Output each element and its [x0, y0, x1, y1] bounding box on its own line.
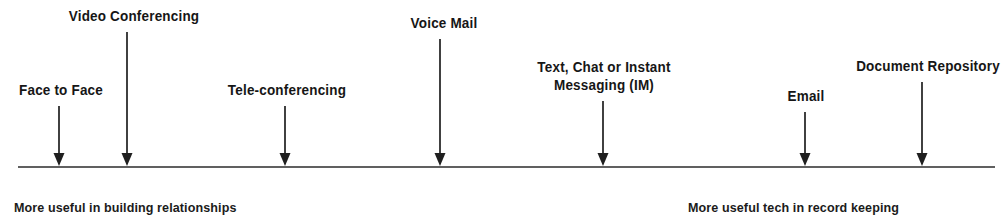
right-caption: More useful tech in record keeping — [688, 200, 899, 215]
arrow-heads-group — [54, 153, 928, 166]
node-label-line: Face to Face — [19, 82, 103, 99]
communication-continuum-figure: Face to FaceVideo ConferencingTele-confe… — [0, 0, 1003, 215]
arrow-head-email — [800, 153, 811, 166]
node-label-text-email: Email — [788, 88, 825, 105]
arrow-head-tele-conferencing — [280, 153, 291, 166]
node-label-line: Tele-conferencing — [228, 82, 346, 99]
node-label-text-voice-mail: Voice Mail — [411, 15, 478, 32]
arrow-head-document-repository — [917, 153, 928, 166]
node-label-text-document-repository: Document Repository — [856, 58, 1000, 75]
node-label-text-face-to-face: Face to Face — [19, 82, 103, 99]
node-label-text-text-chat-im: Text, Chat or InstantMessaging (IM) — [537, 58, 670, 94]
arrow-head-voice-mail — [435, 153, 446, 166]
node-label-line: Text, Chat or Instant — [537, 58, 670, 76]
node-label-text-video-conferencing: Video Conferencing — [69, 8, 199, 25]
node-label-line: Voice Mail — [411, 15, 478, 32]
node-label-text-tele-conferencing: Tele-conferencing — [228, 82, 346, 99]
node-label-line: Document Repository — [856, 58, 1000, 75]
arrow-head-text-chat-im — [598, 153, 609, 166]
node-label-line: Messaging (IM) — [537, 76, 670, 94]
axis-and-arrows — [0, 0, 1003, 215]
node-label-line: Email — [788, 88, 825, 105]
left-caption: More useful in building relationships — [14, 200, 236, 215]
node-label-line: Video Conferencing — [69, 8, 199, 25]
arrow-head-video-conferencing — [122, 153, 133, 166]
arrow-head-face-to-face — [54, 153, 65, 166]
